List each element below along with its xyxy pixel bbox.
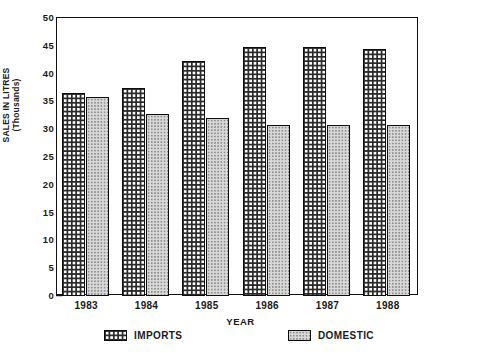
bar-domestic-1983 (86, 97, 109, 296)
x-tick-label: 1986 (237, 300, 297, 311)
y-tick-label: 40 (0, 67, 54, 78)
bar-imports-1987 (303, 47, 326, 296)
y-tick-label: 20 (0, 178, 54, 189)
scan-artifact-title (150, 0, 370, 5)
bar-imports-1988 (363, 49, 386, 296)
y-tick-label: 5 (0, 262, 54, 273)
legend-label-domestic: DOMESTIC (318, 330, 374, 341)
y-tick-label: 45 (0, 39, 54, 50)
bar-domestic-1986 (267, 125, 290, 296)
y-tick-label: 30 (0, 123, 54, 134)
x-tick-label: 1985 (177, 300, 237, 311)
y-tick-label: 50 (0, 12, 54, 23)
bar-imports-1986 (243, 47, 266, 296)
y-tick-label: 35 (0, 95, 54, 106)
y-tick-label: 10 (0, 234, 54, 245)
bar-imports-1984 (122, 88, 145, 297)
legend-item-domestic: DOMESTIC (288, 330, 374, 341)
x-tick-label: 1987 (298, 300, 358, 311)
chart-legend: IMPORTS DOMESTIC (0, 330, 481, 352)
y-tick-label: 0 (0, 290, 54, 301)
y-tick-label: 15 (0, 206, 54, 217)
x-tick-label: 1988 (358, 300, 418, 311)
legend-item-imports: IMPORTS (104, 330, 182, 341)
domestic-swatch-icon (288, 330, 311, 341)
bar-domestic-1984 (146, 114, 169, 296)
bar-domestic-1988 (387, 125, 410, 296)
plot-area (56, 17, 418, 295)
bar-domestic-1985 (206, 118, 229, 296)
y-tick-label: 25 (0, 151, 54, 162)
bar-domestic-1987 (327, 125, 350, 296)
bar-chart: SALES IN LITRES (Thousands) 051015202530… (0, 0, 481, 358)
imports-swatch-icon (104, 330, 127, 341)
x-tick-label: 1984 (117, 300, 177, 311)
bar-imports-1983 (62, 93, 85, 296)
legend-label-imports: IMPORTS (134, 330, 182, 341)
x-axis-title: YEAR (0, 316, 481, 327)
bar-imports-1985 (182, 61, 205, 296)
x-tick-label: 1983 (56, 300, 116, 311)
